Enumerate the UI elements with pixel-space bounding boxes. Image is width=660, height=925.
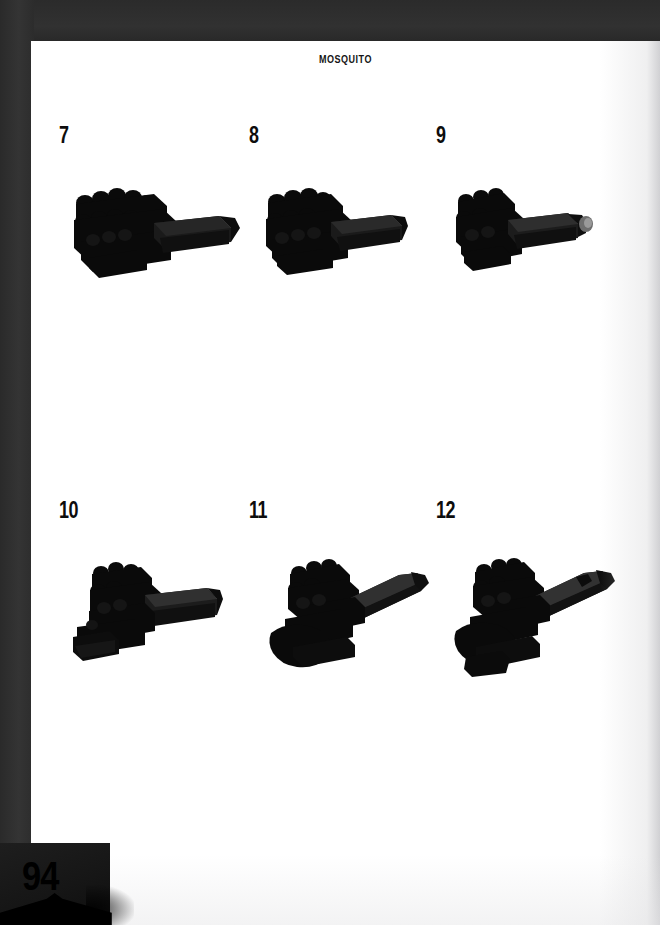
step-number-7: 7: [59, 124, 69, 147]
step-number-11: 11: [249, 499, 267, 522]
page-number: 94: [22, 856, 59, 896]
scanner-bed-top-shade: [0, 0, 660, 44]
scanner-bed-left-shade: [0, 0, 34, 925]
lego-assembly-step-8: [249, 176, 439, 326]
step-panel-7: 7: [59, 124, 249, 454]
page-title: MOSQUITO: [88, 53, 604, 65]
step-panel-9: 9: [436, 124, 626, 454]
lego-assembly-step-10: [59, 551, 249, 701]
step-number-10: 10: [59, 499, 78, 522]
scanner-background: MOSQUITO 7: [0, 0, 660, 925]
step-panel-12: 12: [436, 499, 626, 829]
step-number-9: 9: [436, 124, 446, 147]
step-number-12: 12: [436, 499, 455, 522]
lego-assembly-step-7: [59, 176, 249, 326]
page-corner-shadow-blur: [86, 885, 134, 925]
step-panel-11: 11: [249, 499, 439, 829]
step-number-8: 8: [249, 124, 259, 147]
lego-assembly-step-12: [436, 551, 626, 701]
lego-assembly-step-9: [436, 176, 626, 326]
lego-assembly-step-11: [249, 551, 439, 701]
instruction-page: MOSQUITO 7: [31, 41, 660, 925]
step-panel-10: 10: [59, 499, 249, 829]
step-panel-8: 8: [249, 124, 439, 454]
